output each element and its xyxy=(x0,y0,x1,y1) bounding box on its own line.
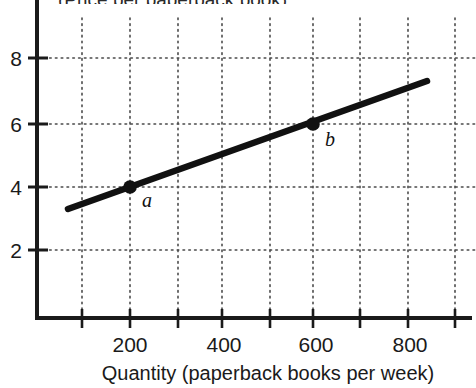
grid-vertical xyxy=(82,18,455,312)
data-point-a xyxy=(123,180,137,194)
axis-lines xyxy=(35,0,472,320)
data-point-label-a: a xyxy=(142,189,152,211)
svg-text:(Price per paperback book): (Price per paperback book) xyxy=(58,0,287,10)
clipped-y-axis-title: (Price per paperback book) xyxy=(58,0,287,10)
x-tick-label-200: 200 xyxy=(112,333,147,356)
y-tick-label-4: 4 xyxy=(10,176,22,199)
x-tick-label-600: 600 xyxy=(298,333,333,356)
price-quantity-line-chart: 8 6 4 2 200 400 600 800 a b Quantity (pa… xyxy=(0,0,476,388)
y-tick-label-2: 2 xyxy=(10,239,22,262)
y-tick-label-6: 6 xyxy=(10,113,22,136)
x-axis-title: Quantity (paperback books per week) xyxy=(102,362,434,384)
chart-container: 8 6 4 2 200 400 600 800 a b Quantity (pa… xyxy=(0,0,476,388)
data-point-label-b: b xyxy=(325,128,335,150)
supply-line xyxy=(68,81,427,209)
x-tick-label-800: 800 xyxy=(392,333,427,356)
y-tick-label-8: 8 xyxy=(10,47,22,70)
data-point-b xyxy=(306,117,320,131)
x-tick-label-400: 400 xyxy=(206,333,241,356)
